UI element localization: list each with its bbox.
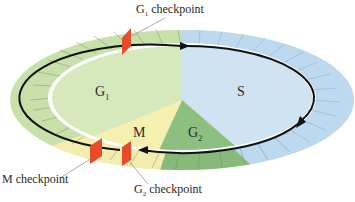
m-checkpoint-suffix: checkpoint — [13, 172, 69, 186]
phase-g1-sub: 1 — [105, 93, 109, 102]
phase-m-base: M — [133, 125, 145, 140]
phase-label-m: M — [133, 125, 145, 141]
g2-checkpoint-suffix: checkpoint — [146, 182, 202, 196]
g1-checkpoint-label: G1 checkpoint — [136, 2, 204, 18]
m-checkpoint-base: M — [2, 172, 13, 186]
g1-checkpoint-base: G — [136, 2, 145, 16]
phase-label-g1: G1 — [95, 84, 109, 102]
phase-label-g2: G2 — [188, 125, 202, 143]
phase-g2-base: G — [188, 125, 198, 140]
phase-g2-sub: 2 — [198, 134, 202, 143]
phase-s-base: S — [237, 84, 245, 99]
g2-checkpoint-base: G — [134, 182, 143, 196]
g1-checkpoint-suffix: checkpoint — [148, 2, 204, 16]
phase-g1-base: G — [95, 84, 105, 99]
phase-label-s: S — [237, 84, 245, 100]
g2-checkpoint-label: G2 checkpoint — [134, 182, 202, 198]
m-checkpoint-label: M checkpoint — [2, 172, 68, 187]
